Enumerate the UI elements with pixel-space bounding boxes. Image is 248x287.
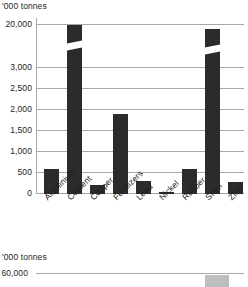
axis-break-slash (205, 44, 220, 54)
axis-break-slash (67, 40, 82, 50)
y-axis-tick-label: 2,000 (10, 104, 32, 114)
y-axis-tick-label: 1,500 (10, 125, 32, 135)
chart2-gridline (36, 273, 244, 274)
chart1-x-axis-labels: AluminiumCementCopperFertilizersLeadNick… (36, 195, 244, 240)
chart2-y-axis-tick: 60,000 (1, 268, 28, 278)
chart2-plot-area: 60,000 (36, 273, 244, 287)
y-axis-tick-label: 500 (18, 167, 32, 177)
chart2-unit-label: '000 tonnes (2, 252, 47, 262)
chart1-plot-area (36, 18, 244, 194)
chart1-unit-label: '000 tonnes (2, 1, 47, 11)
chart1-y-axis-line (36, 18, 37, 194)
bar-steel (205, 29, 220, 194)
commodity-volume-bar-chart: '000 tonnes 20,0003,0002,5002,0001,5001,… (0, 0, 248, 240)
y-axis-tick-label: 1,000 (10, 146, 32, 156)
second-chart-cropped: '000 tonnes 60,000 (0, 240, 248, 287)
y-axis-tick-label: 3,000 (10, 62, 32, 72)
y-axis-tick-label: 0 (27, 188, 32, 198)
y-axis-tick-label: 2,500 (10, 83, 32, 93)
chart2-bar (205, 275, 229, 287)
y-axis-tick-label: 20,000 (5, 19, 32, 29)
